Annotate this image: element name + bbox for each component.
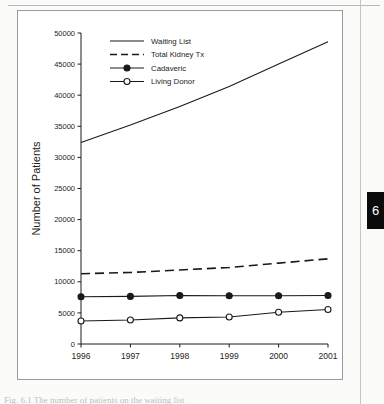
series-line-waiting-list xyxy=(81,42,328,143)
x-axis-tick-label: 1999 xyxy=(220,351,239,361)
data-point-living-donor xyxy=(325,306,331,312)
data-point-living-donor xyxy=(276,309,282,315)
data-point-cadaveric xyxy=(78,294,84,300)
y-axis-tick-label: 0 xyxy=(71,340,75,349)
figure-frame: 0500010000150002000025000300003500040000… xyxy=(17,10,343,380)
y-axis-tick-label: 40000 xyxy=(54,91,75,100)
data-point-cadaveric xyxy=(226,293,232,299)
scan-top-rule xyxy=(8,5,380,6)
chart-plot-area: 0500010000150002000025000300003500040000… xyxy=(18,11,344,381)
data-point-living-donor xyxy=(127,317,133,323)
y-axis-tick-label: 50000 xyxy=(54,29,75,38)
x-axis-tick-label: 2000 xyxy=(269,351,288,361)
x-axis-tick-label: 1996 xyxy=(72,351,91,361)
data-point-cadaveric xyxy=(127,293,133,299)
y-axis-tick-label: 10000 xyxy=(54,277,75,286)
x-axis-tick-label: 1998 xyxy=(170,351,189,361)
series-line-total-kidney-tx xyxy=(81,259,328,274)
legend-marker-living-donor xyxy=(124,79,130,85)
data-point-cadaveric xyxy=(325,292,331,298)
series-line-living-donor xyxy=(81,309,328,321)
data-point-cadaveric xyxy=(177,292,183,298)
y-axis-tick-label: 25000 xyxy=(54,184,75,193)
scan-gutter-line xyxy=(360,0,361,404)
y-axis-tick-label: 45000 xyxy=(54,60,75,69)
legend-label-total-kidney-tx: Total Kidney Tx xyxy=(151,50,204,59)
data-point-cadaveric xyxy=(276,293,282,299)
x-axis-tick-label: 1997 xyxy=(121,351,140,361)
y-axis-tick-label: 20000 xyxy=(54,215,75,224)
data-point-living-donor xyxy=(177,315,183,321)
y-axis-tick-label: 35000 xyxy=(54,122,75,131)
legend-marker-cadaveric xyxy=(124,65,130,71)
x-axis-tick-label: 2001 xyxy=(319,351,338,361)
y-axis-tick-label: 15000 xyxy=(54,246,75,255)
line-chart: 0500010000150002000025000300003500040000… xyxy=(18,11,344,381)
page-tab-number: 6 xyxy=(367,192,384,229)
legend-label-cadaveric: Cadaveric xyxy=(151,64,186,73)
y-axis-tick-label: 5000 xyxy=(58,309,75,318)
series-line-cadaveric xyxy=(81,295,328,296)
y-axis-title: Number of Patients xyxy=(30,141,42,236)
data-point-living-donor xyxy=(226,314,232,320)
legend-label-waiting-list: Waiting List xyxy=(151,37,192,46)
data-point-living-donor xyxy=(78,318,84,324)
figure-caption: Fig. 6.1 The number of patients on the w… xyxy=(4,395,344,404)
y-axis-tick-label: 30000 xyxy=(54,153,75,162)
legend-label-living-donor: Living Donor xyxy=(151,77,195,86)
